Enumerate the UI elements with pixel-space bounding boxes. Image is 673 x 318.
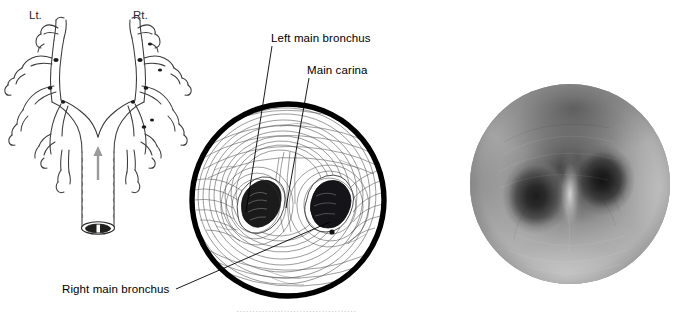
left-lung-branches xyxy=(5,17,71,192)
bronchoscopic-drawing-svg xyxy=(180,20,410,318)
tree-label-left: Lt. xyxy=(29,9,42,21)
callout-right-main-bronchus: Right main bronchus xyxy=(62,283,169,296)
bronchoscopy-photograph-panel xyxy=(462,78,673,298)
tree-label-right: Rt. xyxy=(133,9,148,21)
up-arrow-icon xyxy=(93,146,102,180)
callout-main-carina: Main carina xyxy=(307,64,368,77)
ostium-marker-dot xyxy=(329,229,334,234)
callout-left-main-bronchus: Left main bronchus xyxy=(271,32,371,45)
bronchial-tree-schematic-panel xyxy=(0,0,200,250)
bronchoscopic-drawing-panel xyxy=(180,20,410,318)
figure-root: Lt. Rt. xyxy=(0,0,673,318)
bronchoscopy-photo xyxy=(470,84,670,284)
trachea-opening-highlight xyxy=(97,225,101,233)
clipped-caption-text: ······································ xyxy=(236,309,356,316)
bronchial-tree-svg xyxy=(0,0,200,250)
clipped-caption-strip: ······································ xyxy=(0,309,673,318)
photo-vignette xyxy=(470,84,670,284)
